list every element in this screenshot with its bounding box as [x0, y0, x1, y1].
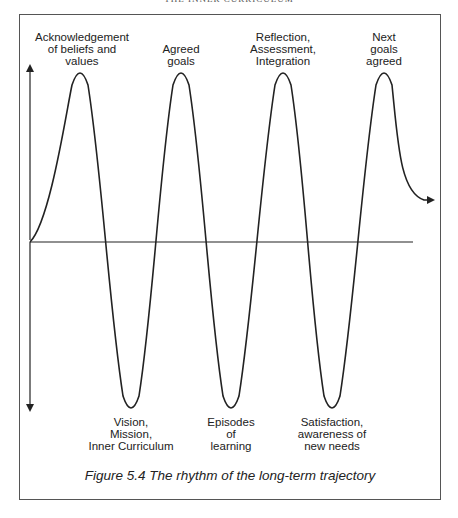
wave-curve — [30, 73, 433, 408]
peak-label: Reflection, Assessment, Integration — [250, 31, 316, 67]
peak-label: Acknowledgement of beliefs and values — [35, 31, 129, 67]
trough-label: Episodes of learning — [207, 416, 254, 452]
figure-caption: Figure 5.4 The rhythm of the long-term t… — [19, 468, 441, 483]
peak-label: Agreed goals — [162, 43, 199, 67]
trough-label: Satisfaction, awareness of new needs — [298, 416, 366, 452]
trough-label: Vision, Mission, Inner Curriculum — [89, 416, 174, 452]
peak-label: Next goals agreed — [366, 31, 402, 67]
